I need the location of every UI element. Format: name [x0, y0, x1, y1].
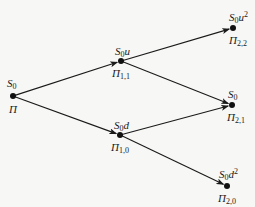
binomial-tree-diagram: S0 Π S0u Π1,1 S0d Π1,0 S0u2 Π2,2 S0 Π2,1…: [0, 0, 255, 207]
node-2-0-value-label: Π2,0: [218, 193, 236, 206]
node-dot-n21: [229, 102, 235, 108]
node-dot-n22: [230, 25, 236, 31]
edge-n10-n21: [122, 106, 228, 134]
edge-root-n11: [15, 62, 117, 95]
edge-root-n10: [15, 97, 116, 134]
tree-edges: [0, 0, 255, 207]
node-1-0-price-label: S0d: [114, 120, 129, 133]
node-dot-root: [10, 93, 16, 99]
node-dot-n20: [224, 183, 230, 189]
node-1-1-price-label: S0u: [115, 46, 130, 59]
node-2-1-value-label: Π2,1: [227, 112, 245, 125]
node-2-2-value-label: Π2,2: [229, 35, 247, 48]
node-2-2-price-label: S0u2: [229, 11, 248, 25]
edge-n11-n22: [123, 29, 229, 60]
node-1-0-value-label: Π1,0: [111, 142, 129, 155]
edge-n10-n20: [122, 136, 224, 184]
edge-n11-n21: [123, 62, 228, 104]
node-1-1-value-label: Π1,1: [112, 68, 130, 81]
node-2-1-price-label: S0: [228, 89, 238, 102]
node-2-0-price-label: S0d2: [219, 168, 238, 182]
node-root-price-label: S0: [7, 78, 17, 91]
node-root-value-label: Π: [9, 104, 17, 115]
